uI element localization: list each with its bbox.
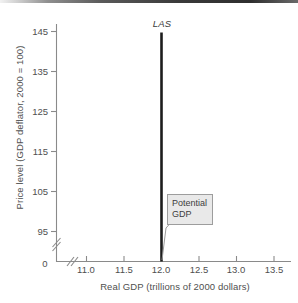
x-tick-label-13-0: 13.0 <box>219 265 253 275</box>
y-tick-label-95: 95 <box>22 227 48 237</box>
y-tick-label-105: 105 <box>22 187 48 197</box>
origin-label: 0 <box>38 258 52 269</box>
x-axis-title: Real GDP (trillions of 2000 dollars) <box>56 281 294 292</box>
las-curve-label: LAS <box>136 18 188 29</box>
callout-line-2: GDP <box>172 209 208 220</box>
potential-gdp-callout: Potential GDP <box>167 194 213 225</box>
x-tick-label-11-5: 11.5 <box>107 265 141 275</box>
x-tick-label-12-0: 12.0 <box>144 265 178 275</box>
y-tick-label-135: 135 <box>22 67 48 77</box>
y-tick-label-145: 145 <box>22 27 48 37</box>
x-tick-label-13-5: 13.5 <box>257 265 291 275</box>
x-tick-label-11-0: 11.0 <box>69 265 103 275</box>
callout-line-1: Potential <box>172 198 208 209</box>
y-tick-label-115: 115 <box>22 147 48 157</box>
y-tick-label-125: 125 <box>22 107 48 117</box>
x-axis-ticks <box>87 256 275 262</box>
y-axis-title: Price level (GDP deflator, 2000 = 100) <box>14 23 25 233</box>
y-axis-ticks <box>51 32 57 232</box>
figure-canvas: Price level (GDP deflator, 2000 = 100) R… <box>0 0 298 303</box>
x-tick-label-12-5: 12.5 <box>182 265 216 275</box>
